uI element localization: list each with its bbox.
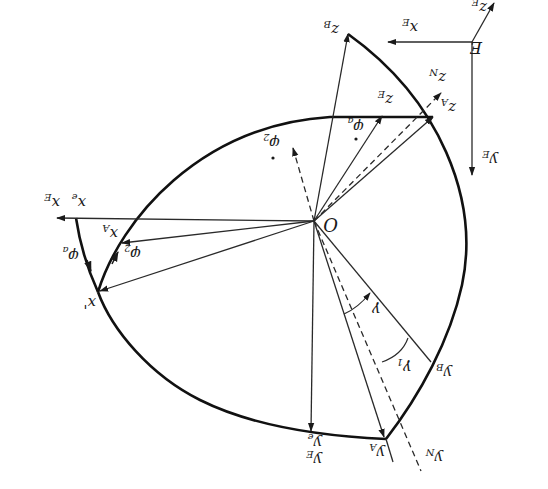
frame-E-label: E — [469, 38, 483, 58]
z-E-top-label: zE — [471, 0, 488, 17]
y-A-extension — [386, 439, 393, 462]
z-A-label: zA — [441, 97, 457, 117]
y-A-label: yA — [369, 442, 386, 462]
x-A-label: xA — [102, 223, 118, 243]
z-A-vector — [314, 117, 433, 221]
gamma-arc — [344, 293, 370, 314]
z-B-vector — [314, 34, 348, 221]
z-N-label: zN — [428, 67, 447, 87]
sphere-outline — [76, 34, 466, 439]
z-N-vector — [314, 93, 441, 221]
phi2-dashed-vector — [293, 148, 314, 221]
x-E-label: xE — [44, 192, 60, 212]
y-E-top-label: yE — [482, 149, 499, 169]
coordinate-frame-diagram: E xE yE zE O zB zN zA zE φa — [0, 0, 548, 489]
x-E-top-label: xE — [402, 17, 418, 37]
y-N-label: yN — [425, 447, 444, 467]
y-e-label: ye — [308, 432, 323, 452]
origin-label: O — [323, 214, 338, 235]
gamma1-label: γ1 — [397, 357, 412, 377]
y-A-vector — [314, 221, 384, 437]
phi-a-upper-label: φa — [347, 116, 364, 136]
gamma1-arc — [382, 338, 408, 362]
phi-2-upper-label: φ2 — [263, 132, 280, 152]
phi-a-upper-dot — [354, 137, 357, 140]
z-E-label: zE — [377, 89, 394, 109]
y-E-label: yE — [306, 449, 323, 469]
labels: O zB zN zA zE φa φ2 xE xe xA φ2 φa x' γ … — [44, 19, 457, 469]
phi-2-lower-label: φ2 — [124, 243, 141, 263]
phi-2-upper-dot — [271, 156, 274, 159]
y-B-vector — [314, 221, 431, 362]
y-B-label: yB — [436, 362, 453, 382]
gamma-label: γ — [372, 301, 381, 319]
x-E-vector — [57, 218, 314, 221]
arc-bottom — [98, 292, 386, 439]
x-A-vector — [122, 221, 314, 243]
x-e-label: xe — [72, 192, 86, 212]
x-prime-label: x' — [83, 294, 96, 312]
y-E-vector — [311, 221, 314, 431]
z-B-label: zB — [324, 19, 340, 39]
phi-a-lower-label: φa — [62, 245, 79, 265]
